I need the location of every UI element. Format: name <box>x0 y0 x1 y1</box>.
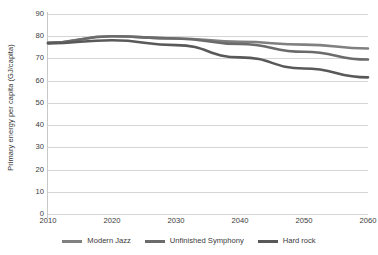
legend-label: Hard rock <box>283 237 316 245</box>
y-tick-label: 20 <box>22 166 44 174</box>
x-tick-label: 2040 <box>220 217 260 225</box>
y-tick-label: 40 <box>22 121 44 129</box>
legend-item[interactable]: Hard rock <box>258 237 316 245</box>
legend-label: Unfinished Symphony <box>170 237 244 245</box>
chart-legend: Modern JazzUnfinished SymphonyHard rock <box>0 233 378 249</box>
x-tick-label: 2010 <box>28 217 68 225</box>
legend-label: Modern Jazz <box>87 237 130 245</box>
y-tick-label: 90 <box>22 10 44 18</box>
x-tick-label: 2020 <box>92 217 132 225</box>
y-axis-title: Primary energy per capita (GJ/capita) <box>0 0 20 215</box>
y-tick-label: 30 <box>22 143 44 151</box>
legend-swatch-icon <box>62 240 82 243</box>
gridline <box>48 214 368 215</box>
y-tick-label: 50 <box>22 99 44 107</box>
series-lines <box>48 14 368 214</box>
chart-container: Primary energy per capita (GJ/capita) 90… <box>0 0 378 255</box>
x-axis-tick-labels: 201020202030204020502060 <box>0 217 378 231</box>
legend-item[interactable]: Modern Jazz <box>62 237 130 245</box>
x-tick-label: 2030 <box>156 217 196 225</box>
x-tick-label: 2050 <box>284 217 324 225</box>
legend-swatch-icon <box>258 240 278 243</box>
y-axis-title-text: Primary energy per capita (GJ/capita) <box>6 44 15 171</box>
legend-swatch-icon <box>145 240 165 243</box>
x-tick-label: 2060 <box>348 217 378 225</box>
plot-area <box>48 14 368 214</box>
y-tick-label: 80 <box>22 32 44 40</box>
y-tick-label: 60 <box>22 77 44 85</box>
y-tick-label: 70 <box>22 54 44 62</box>
legend-item[interactable]: Unfinished Symphony <box>145 237 244 245</box>
y-tick-label: 10 <box>22 188 44 196</box>
y-axis-tick-labels: 9080706050403020100 <box>20 0 44 220</box>
